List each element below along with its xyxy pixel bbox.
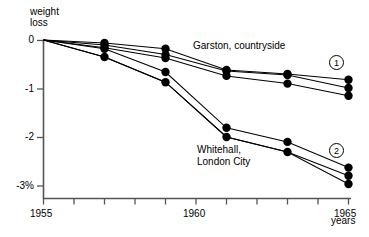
data-point (344, 163, 352, 171)
data-point (283, 138, 291, 146)
data-point (100, 45, 108, 53)
data-point (344, 172, 352, 180)
data-point (222, 133, 230, 141)
data-point (344, 76, 352, 84)
series-label-whitehall-line2: London City (197, 156, 250, 167)
weight-loss-line-chart: weight loss 0 -1 -2 -3% 1955 1960 1965 y… (0, 0, 369, 237)
data-point (344, 84, 352, 92)
data-point (344, 180, 352, 188)
series-label-garston: Garston, countryside (193, 40, 285, 52)
y-tick-label-2: -2 (14, 131, 34, 142)
x-tick-label-1955: 1955 (30, 208, 52, 219)
y-tick-label-0: 0 (18, 34, 34, 45)
x-axis-ticks (44, 199, 349, 205)
data-point (100, 53, 108, 61)
data-point (161, 78, 169, 86)
data-point (161, 68, 169, 76)
chart-axes (44, 40, 352, 199)
x-tick-label-1960: 1960 (183, 208, 205, 219)
data-point (161, 54, 169, 62)
series-label-whitehall: Whitehall,London City (197, 144, 250, 168)
y-tick-label-3: -3% (6, 180, 34, 191)
y-tick-label-1: -1 (14, 83, 34, 94)
data-point (283, 148, 291, 156)
chart-plot-area (0, 0, 369, 237)
series-line-whitehall-b (44, 40, 349, 176)
y-axis-title: weight loss (30, 6, 59, 28)
data-point (344, 92, 352, 100)
data-point (283, 71, 291, 79)
data-point (222, 124, 230, 132)
group-marker-2: 2 (329, 143, 344, 158)
x-axis-title: years (331, 215, 355, 226)
series-label-whitehall-line1: Whitehall, (197, 144, 241, 155)
series-line-whitehall-c (44, 40, 349, 184)
data-point (222, 72, 230, 80)
data-point (283, 79, 291, 87)
group-marker-1: 1 (329, 55, 344, 70)
series-lines-group (44, 40, 349, 184)
y-axis-ticks (37, 41, 44, 187)
